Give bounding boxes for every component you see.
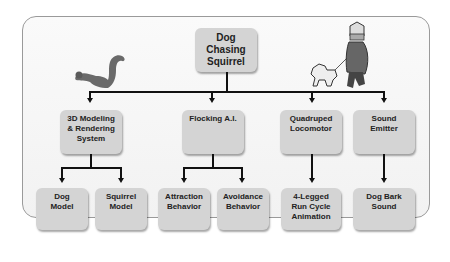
- node-dog-bark-sound: Dog Bark Sound: [353, 188, 415, 230]
- arrow-icon: [381, 98, 387, 103]
- arrow-icon: [381, 178, 387, 183]
- connector: [311, 154, 313, 179]
- node-run-cycle-animation: 4-Legged Run Cycle Animation: [281, 188, 341, 230]
- connector: [183, 167, 242, 169]
- connector: [61, 167, 121, 169]
- connector: [90, 154, 92, 168]
- arrow-icon: [309, 98, 315, 103]
- man-walking-dog-illustration: [305, 20, 385, 92]
- arrow-icon: [59, 178, 65, 183]
- arrow-icon: [309, 178, 315, 183]
- arrow-icon: [239, 178, 245, 183]
- arrow-icon: [87, 98, 93, 103]
- squirrel-illustration: [70, 50, 130, 92]
- connector: [226, 72, 228, 92]
- node-dog-model: Dog Model: [36, 188, 88, 230]
- node-dog-chasing-squirrel: Dog Chasing Squirrel: [195, 28, 257, 72]
- arrow-icon: [118, 178, 124, 183]
- node-3d-modeling: 3D Modeling & Rendering System: [60, 110, 122, 154]
- node-quadruped-locomotor: Quadruped Locomotor: [280, 110, 342, 154]
- arrow-icon: [181, 178, 187, 183]
- node-attraction-behavior: Attraction Behavior: [158, 188, 210, 230]
- node-flocking-ai: Flocking A.I.: [182, 110, 244, 154]
- connector: [212, 154, 214, 168]
- node-squirrel-model: Squirrel Model: [95, 188, 147, 230]
- node-avoidance-behavior: Avoidance Behavior: [217, 188, 269, 230]
- node-sound-emitter: Sound Emitter: [353, 110, 415, 154]
- connector: [383, 154, 385, 179]
- arrow-icon: [209, 98, 215, 103]
